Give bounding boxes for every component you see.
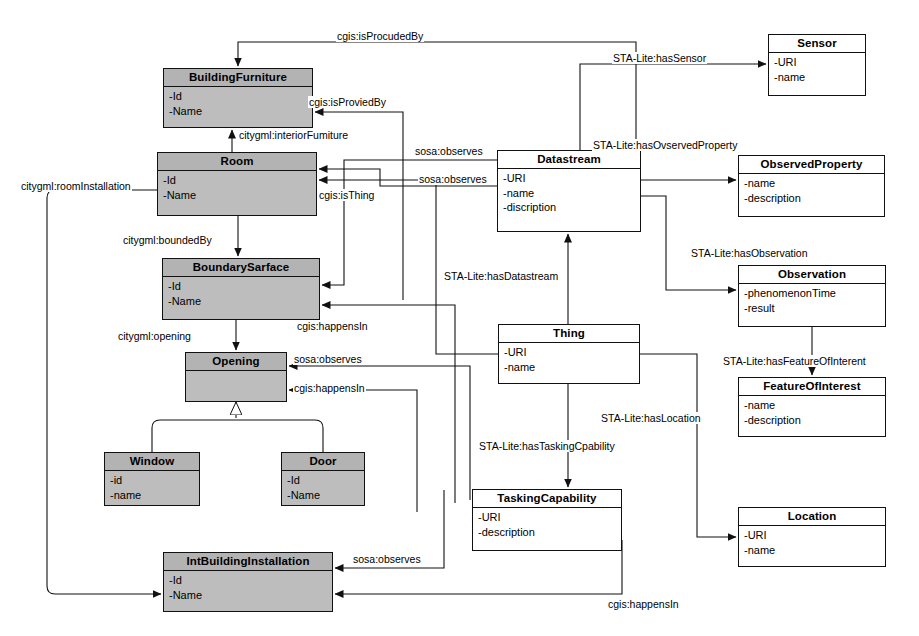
class-attribute: -Id xyxy=(287,473,364,488)
class-box-datastream[interactable]: Datastream-URI-name-discription xyxy=(497,150,641,232)
class-box-opening[interactable]: Opening xyxy=(185,352,287,402)
class-box-taskingcapability[interactable]: TaskingCapability-URI-description xyxy=(472,489,622,551)
class-attribute: -id xyxy=(110,473,199,488)
class-attribute: -phenomenonTime xyxy=(744,286,885,301)
edge-label-isproviedby: cgis:isProviedBy xyxy=(308,96,387,108)
edge-generalization-window xyxy=(152,420,236,452)
class-title-opening: Opening xyxy=(186,353,286,371)
class-attribute: -description xyxy=(744,413,885,428)
class-box-window[interactable]: Window-id-name xyxy=(104,452,200,506)
class-attribute: -name xyxy=(774,70,865,85)
class-attributes-opening xyxy=(186,371,286,401)
edge-haslocation xyxy=(640,354,736,537)
class-title-location: Location xyxy=(739,508,885,526)
class-attribute: -result xyxy=(744,301,885,316)
class-attribute: -Id xyxy=(163,173,316,188)
class-title-buildingfurniture: BuildingFurniture xyxy=(164,69,312,87)
class-box-room[interactable]: Room-Id-Name xyxy=(157,152,317,216)
edge-label-hastaskingcpability: STA-Lite:hasTaskingCpability xyxy=(478,440,616,452)
class-attributes-boundarysarface: -Id-Name xyxy=(163,277,319,319)
class-attribute: -discription xyxy=(503,200,640,215)
class-attributes-thing: -URI-name xyxy=(499,343,639,383)
class-title-thing: Thing xyxy=(499,325,639,343)
class-box-location[interactable]: Location-URI-name xyxy=(738,507,886,567)
edge-roominstallation xyxy=(47,190,161,594)
class-attribute: -URI xyxy=(744,528,885,543)
class-title-boundarysarface: BoundarySarface xyxy=(163,259,319,277)
class-title-door: Door xyxy=(282,453,364,471)
class-attributes-location: -URI-name xyxy=(739,526,885,566)
class-attribute: -name xyxy=(503,186,640,201)
class-attributes-buildingfurniture: -Id-Name xyxy=(164,87,312,127)
class-attribute: -Name xyxy=(287,488,364,503)
edge-label-isprocudedby: cgis:isProcudedBy xyxy=(336,30,424,42)
class-attributes-taskingcapability: -URI-description xyxy=(473,508,621,550)
class-title-window: Window xyxy=(105,453,199,471)
class-title-taskingcapability: TaskingCapability xyxy=(473,490,621,508)
class-attribute: -Id xyxy=(169,89,312,104)
class-attributes-window: -id-name xyxy=(105,471,199,505)
class-attribute: -Name xyxy=(163,188,316,203)
class-attribute: -URI xyxy=(504,345,639,360)
class-title-featureofinterest: FeatureOfInterest xyxy=(739,378,885,396)
class-title-room: Room xyxy=(158,153,316,171)
edge-label-sosaobserves-4: sosa:observes xyxy=(352,553,422,565)
class-attribute: -Name xyxy=(169,588,332,603)
class-box-observedproperty[interactable]: ObservedProperty-name-description xyxy=(738,155,885,217)
class-title-datastream: Datastream xyxy=(498,151,640,169)
edge-label-happensin-1: cgis:happensIn xyxy=(296,320,369,332)
uml-class-diagram: BuildingFurniture-Id-NameRoom-Id-NameBou… xyxy=(0,0,919,636)
class-attribute: -URI xyxy=(503,171,640,186)
class-box-sensor[interactable]: Sensor-URI-name xyxy=(768,34,866,96)
class-attributes-door: -Id-Name xyxy=(282,471,364,505)
class-attributes-room: -Id-Name xyxy=(158,171,316,215)
edge-hasobservation xyxy=(641,196,736,290)
class-attributes-intbuildinginstallation: -Id-Name xyxy=(164,571,332,611)
edge-label-hassensor: STA-Lite:hasSensor xyxy=(612,52,707,64)
class-attributes-observedproperty: -name-description xyxy=(739,174,884,216)
edge-label-interiorfurniture: citygml:interiorFumiture xyxy=(238,129,349,141)
class-attribute: -name xyxy=(110,488,199,503)
class-box-buildingfurniture[interactable]: BuildingFurniture-Id-Name xyxy=(163,68,313,128)
class-attribute: -Name xyxy=(169,104,312,119)
edge-label-happensin-3: cgis:happensIn xyxy=(607,598,680,610)
edge-label-hasfeatureofinterent: STA-Lite:hasFeatureOfInterent xyxy=(722,355,867,367)
edge-label-sosaobserves-2: sosa:observes xyxy=(418,173,488,185)
class-box-door[interactable]: Door-Id-Name xyxy=(281,452,365,506)
edge-label-isthing: cgis:isThing xyxy=(318,189,375,201)
edge-generalization-door xyxy=(236,420,323,452)
class-title-sensor: Sensor xyxy=(769,35,865,53)
edge-label-boundedby: citygml:boundedBy xyxy=(122,234,213,246)
edge-label-opening-assoc: citygml:opening xyxy=(117,330,192,342)
class-attribute: -description xyxy=(744,191,884,206)
class-attribute: -Id xyxy=(168,279,319,294)
edge-label-happensin-2: cgis:happensIn xyxy=(293,382,366,394)
class-title-intbuildinginstallation: IntBuildingInstallation xyxy=(164,553,332,571)
edge-label-hasovservedproperty: STA-Lite:hasOvservedProperty xyxy=(592,139,739,151)
class-box-intbuildinginstallation[interactable]: IntBuildingInstallation-Id-Name xyxy=(163,552,333,612)
class-attribute: -URI xyxy=(774,55,865,70)
class-box-observation[interactable]: Observation-phenomenonTime-result xyxy=(738,265,886,327)
class-box-boundarysarface[interactable]: BoundarySarface-Id-Name xyxy=(162,258,320,320)
class-attribute: -description xyxy=(478,525,621,540)
class-attributes-sensor: -URI-name xyxy=(769,53,865,95)
class-box-featureofinterest[interactable]: FeatureOfInterest-name-description xyxy=(738,377,886,437)
class-attributes-datastream: -URI-name-discription xyxy=(498,169,640,231)
class-attributes-featureofinterest: -name-description xyxy=(739,396,885,436)
class-title-observedproperty: ObservedProperty xyxy=(739,156,884,174)
class-box-thing[interactable]: Thing-URI-name xyxy=(498,324,640,384)
class-attributes-observation: -phenomenonTime-result xyxy=(739,284,885,326)
class-attribute: -Name xyxy=(168,294,319,309)
edge-label-sosaobserves-3: sosa:observes xyxy=(293,353,363,365)
edge-label-haslocation: STA-Lite:hasLocation xyxy=(600,412,702,424)
class-title-observation: Observation xyxy=(739,266,885,284)
class-attribute: -name xyxy=(744,398,885,413)
class-attribute: -name xyxy=(744,543,885,558)
edge-hassensor xyxy=(580,64,766,150)
class-attribute: -Id xyxy=(169,573,332,588)
edge-label-roominstallation: citygml:roomInstallation xyxy=(20,180,132,192)
class-attribute: -name xyxy=(504,360,639,375)
edge-label-hasdatastream: STA-Lite:hasDatastream xyxy=(443,270,559,282)
edge-label-hasobservation: STA-Lite:hasObservation xyxy=(690,247,809,259)
edge-label-sosaobserves-1: sosa:observes xyxy=(414,145,484,157)
